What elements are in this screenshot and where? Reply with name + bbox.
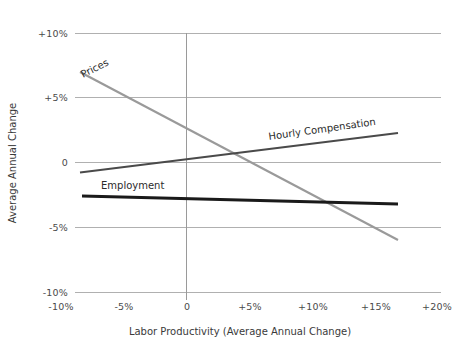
xtick-label-3: +5% — [238, 301, 262, 312]
series-label-prices: Prices — [79, 57, 110, 80]
y-axis-tick-labels: +10% +5% 0 -5% -10% — [38, 28, 68, 298]
ytick-label-4: -10% — [43, 287, 68, 298]
chart-container: +10% +5% 0 -5% -10% -10% -5% 0 +5% +10% … — [0, 0, 457, 350]
x-axis-tick-labels: -10% -5% 0 +5% +10% +15% +20% — [48, 301, 452, 312]
xtick-label-1: -5% — [114, 301, 133, 312]
ytick-label-2: 0 — [62, 157, 68, 168]
series-line-employment — [82, 196, 398, 204]
xtick-label-0: -10% — [48, 301, 73, 312]
y-axis-title: Average Annual Change — [7, 103, 18, 223]
ytick-label-1: +5% — [44, 92, 68, 103]
series-label-employment: Employment — [101, 180, 164, 191]
gridlines-horizontal — [75, 33, 441, 292]
ytick-label-0: +10% — [38, 28, 68, 39]
series-line-hourly-compensation — [80, 133, 398, 173]
x-axis-title: Labor Productivity (Average Annual Chang… — [129, 326, 351, 337]
chart-svg: +10% +5% 0 -5% -10% -10% -5% 0 +5% +10% … — [0, 0, 457, 350]
xtick-label-6: +20% — [422, 301, 452, 312]
xtick-label-4: +10% — [298, 301, 328, 312]
xtick-label-2: 0 — [184, 301, 190, 312]
ytick-label-3: -5% — [49, 222, 68, 233]
series-annotations: Prices Hourly Compensation Employment — [79, 57, 376, 191]
xtick-label-5: +15% — [361, 301, 391, 312]
